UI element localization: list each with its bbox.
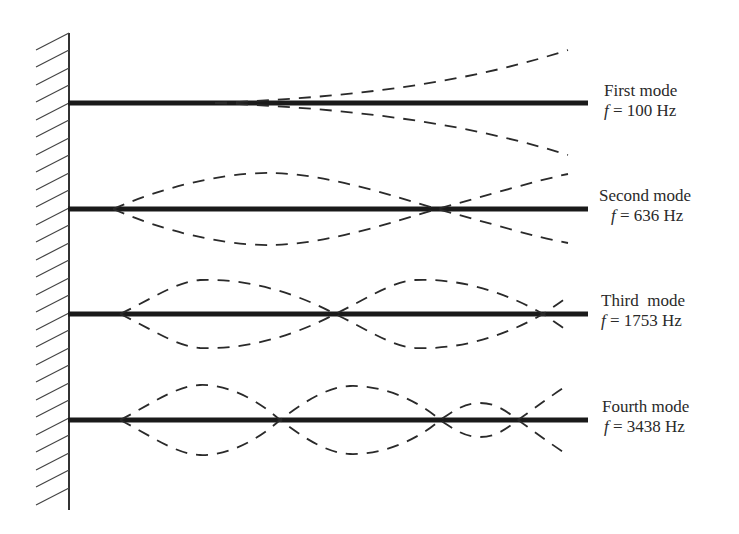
mode-3-label: Third mode f = 1753 Hz — [601, 291, 685, 331]
frequency-symbol: f — [604, 101, 609, 120]
frequency-symbol: f — [604, 417, 609, 436]
mode-1-label: First mode f = 100 Hz — [604, 81, 677, 121]
mode-1-frequency: f = 100 Hz — [604, 101, 677, 121]
mode-2-frequency: f = 636 Hz — [599, 206, 691, 226]
mode-4-frequency: f = 3438 Hz — [602, 417, 689, 437]
mode-2-name: Second mode — [599, 186, 691, 205]
mode-4-frequency-value: = 3438 Hz — [613, 417, 685, 436]
mode-4-shape — [68, 385, 588, 455]
mode-3-shape — [68, 280, 588, 348]
wall-hatching — [36, 33, 69, 505]
mode-3-frequency: f = 1753 Hz — [601, 311, 685, 331]
mode-2-frequency-value: = 636 Hz — [620, 206, 683, 225]
mode-3-frequency-value: = 1753 Hz — [610, 311, 682, 330]
mode-1-shape — [68, 50, 588, 155]
frequency-symbol: f — [601, 311, 606, 330]
mode-4-label: Fourth mode f = 3438 Hz — [602, 397, 689, 437]
mode-3-name: Third mode — [601, 291, 685, 310]
fixed-wall — [36, 33, 69, 510]
frequency-symbol: f — [611, 206, 616, 225]
mode-4-name: Fourth mode — [602, 397, 689, 416]
mode-2-label: Second mode f = 636 Hz — [599, 186, 691, 226]
mode-1-frequency-value: = 100 Hz — [613, 101, 676, 120]
mode-1-name: First mode — [604, 81, 677, 100]
mode-2-shape — [68, 173, 588, 245]
